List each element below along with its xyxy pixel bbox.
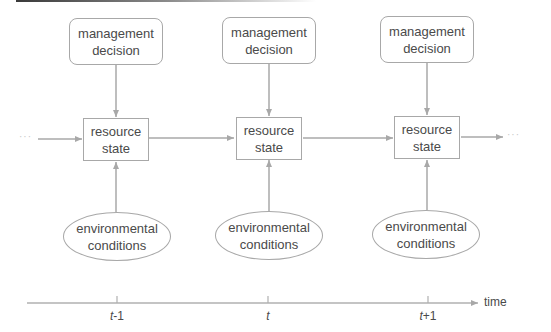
environmental-conditions-ellipse-t: environmental conditions [215, 211, 323, 260]
management-decision-box-t-plus-1: management decision [380, 16, 474, 63]
time-axis-label: time [484, 295, 507, 309]
continuation-left: ··· [19, 131, 32, 142]
resource-state-box-t: resource state [236, 117, 302, 160]
node-label-line1: management [78, 25, 154, 42]
node-label-line2: decision [231, 41, 307, 58]
node-label-line1: resource [91, 123, 142, 140]
node-label-line2: state [91, 140, 142, 157]
node-label-line2: conditions [385, 235, 467, 252]
node-label-line1: environmental [385, 218, 467, 235]
tick-suffix: -1 [113, 309, 124, 323]
tick-suffix: +1 [423, 309, 437, 323]
management-decision-box-t-minus-1: management decision [69, 18, 163, 65]
node-label-line2: decision [78, 42, 154, 59]
node-label-line1: environmental [228, 219, 310, 236]
node-label-line2: state [402, 138, 453, 155]
node-label-line1: resource [244, 122, 295, 139]
node-label-line2: conditions [228, 236, 310, 253]
environmental-conditions-ellipse-t-minus-1: environmental conditions [63, 212, 171, 261]
node-label-line1: management [231, 24, 307, 41]
tick-label-t: t [266, 309, 269, 323]
tick-label-t-minus-1: t-1 [110, 309, 124, 323]
node-label-line1: environmental [76, 220, 158, 237]
tick-label-t-plus-1: t+1 [419, 309, 436, 323]
node-label-line2: decision [389, 40, 465, 57]
node-label-line2: state [244, 139, 295, 156]
tick-var: t [266, 309, 269, 323]
node-label-line1: resource [402, 121, 453, 138]
management-decision-box-t: management decision [222, 17, 316, 64]
resource-state-box-t-minus-1: resource state [83, 118, 149, 161]
continuation-right: ··· [507, 129, 520, 140]
node-label-line1: management [389, 23, 465, 40]
environmental-conditions-ellipse-t-plus-1: environmental conditions [372, 210, 480, 259]
node-label-line2: conditions [76, 237, 158, 254]
resource-state-box-t-plus-1: resource state [394, 116, 460, 159]
